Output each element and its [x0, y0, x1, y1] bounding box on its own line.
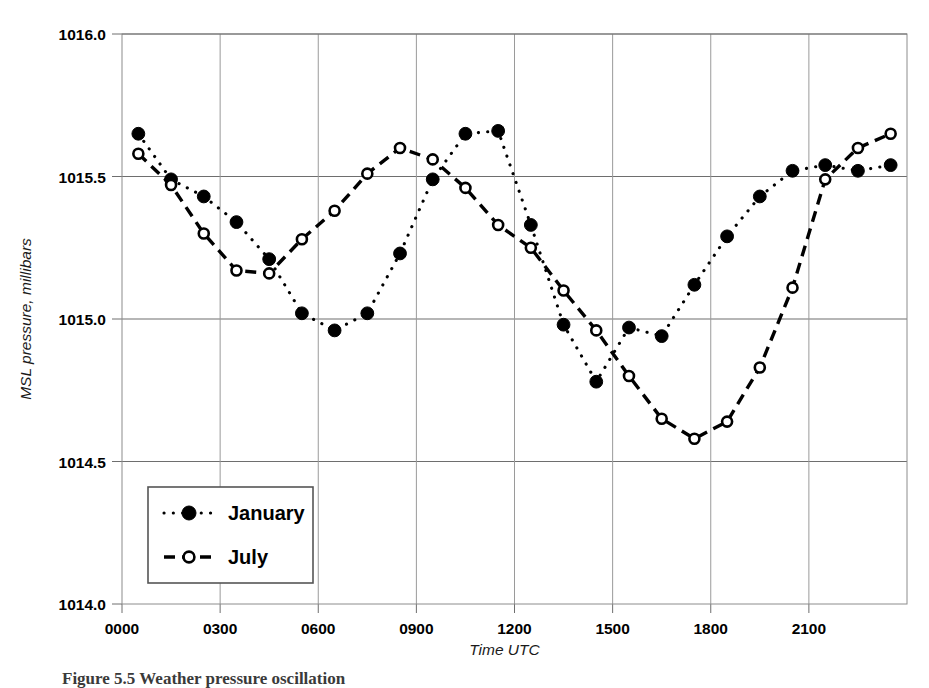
data-point-january — [426, 173, 439, 186]
axis-labels-layer: 1014.01014.51015.01015.51016.00000030006… — [17, 26, 826, 688]
x-tick-label: 2100 — [792, 620, 826, 637]
data-point-july — [297, 234, 307, 244]
data-point-july — [853, 143, 863, 153]
data-point-january — [328, 324, 341, 337]
data-point-july — [624, 371, 634, 381]
x-tick-label: 1200 — [497, 620, 531, 637]
x-axis-title: Time UTC — [469, 641, 540, 658]
data-point-july — [362, 169, 372, 179]
y-tick-label: 1016.0 — [59, 26, 106, 43]
y-tick-label: 1014.0 — [59, 596, 106, 613]
data-point-january — [852, 164, 865, 177]
data-point-july — [264, 268, 274, 278]
data-point-july — [788, 283, 798, 293]
data-point-january — [524, 219, 537, 232]
data-point-july — [559, 286, 569, 296]
data-point-july — [460, 183, 470, 193]
data-point-july — [330, 206, 340, 216]
data-point-january — [884, 159, 897, 172]
x-tick-label: 0900 — [399, 620, 433, 637]
data-point-july — [722, 417, 732, 427]
data-point-january — [786, 164, 799, 177]
data-point-january — [819, 159, 832, 172]
data-point-january — [721, 230, 734, 243]
data-point-july — [493, 220, 503, 230]
y-axis-title: MSL pressure, millibars — [17, 238, 34, 400]
legend-marker-january — [182, 506, 196, 520]
data-point-january — [230, 216, 243, 229]
data-point-january — [623, 321, 636, 334]
legend-label-january: January — [228, 502, 306, 524]
figure-container: 1014.01014.51015.01015.51016.00000030006… — [0, 0, 929, 688]
data-point-january — [394, 247, 407, 260]
data-point-july — [755, 362, 765, 372]
data-point-july — [133, 149, 143, 159]
data-point-january — [557, 318, 570, 331]
data-point-july — [428, 154, 438, 164]
data-point-july — [591, 325, 601, 335]
data-point-january — [197, 190, 210, 203]
data-point-january — [132, 127, 145, 140]
y-tick-label: 1015.5 — [59, 169, 107, 186]
data-point-july — [820, 174, 830, 184]
data-point-january — [459, 127, 472, 140]
data-point-january — [590, 375, 603, 388]
x-tick-label: 1500 — [595, 620, 629, 637]
data-point-july — [689, 434, 699, 444]
data-point-july — [657, 414, 667, 424]
data-point-july — [199, 229, 209, 239]
y-tick-label: 1014.5 — [59, 454, 107, 471]
data-point-july — [166, 180, 176, 190]
data-point-july — [231, 266, 241, 276]
data-point-july — [526, 243, 536, 253]
data-point-july — [886, 129, 896, 139]
data-point-january — [655, 330, 668, 343]
data-point-january — [296, 307, 309, 320]
y-tick-label: 1015.0 — [59, 311, 106, 328]
figure-caption: Figure 5.5 Weather pressure oscillation — [62, 669, 346, 688]
data-point-january — [688, 278, 701, 291]
data-point-january — [361, 307, 374, 320]
pressure-chart: 1014.01014.51015.01015.51016.00000030006… — [0, 0, 929, 688]
x-tick-label: 0000 — [105, 620, 139, 637]
x-tick-label: 0600 — [301, 620, 335, 637]
data-point-january — [492, 124, 505, 137]
data-point-january — [263, 253, 276, 266]
legend-marker-july — [184, 552, 195, 563]
data-point-july — [395, 143, 405, 153]
x-tick-label: 1800 — [694, 620, 728, 637]
chart-legend[interactable]: JanuaryJuly — [148, 487, 313, 583]
legend-label-july: July — [228, 546, 269, 568]
x-tick-label: 0300 — [203, 620, 237, 637]
data-point-january — [753, 190, 766, 203]
